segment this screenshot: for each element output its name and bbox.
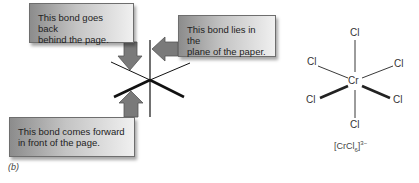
callout-bond-behind: This bond goes back behind the page.: [29, 3, 134, 43]
formula-prefix: [CrCl: [334, 141, 355, 151]
callout-bond-forward: This bond comes forward in front of the …: [9, 117, 135, 157]
atom-cr-center: Cr: [348, 75, 359, 86]
atom-cl-bottom: Cl: [350, 119, 359, 130]
callout-bond-behind-line1: This bond goes back: [38, 12, 125, 34]
callout-bond-forward-line2: in front of the page.: [18, 137, 126, 148]
atom-cl-lower-right: Cl: [393, 94, 402, 105]
callout-bond-in-plane-line1: This bond lies in the: [187, 24, 267, 46]
atom-cl-upper-left: Cl: [307, 56, 316, 67]
arrow-forward-icon: [119, 91, 143, 117]
figure-part-label: (b): [8, 162, 19, 172]
atom-cl-lower-left: Cl: [306, 94, 315, 105]
formula-label: [CrCl6]3−: [334, 140, 367, 153]
callout-bond-forward-line1: This bond comes forward: [18, 126, 126, 137]
callout-bond-in-plane-line2: plane of the paper.: [187, 46, 267, 57]
callout-bond-behind-line2: behind the page.: [38, 34, 125, 45]
arrow-back-icon: [118, 42, 142, 70]
arrow-plane-icon: [151, 37, 178, 61]
atom-cl-top: Cl: [350, 27, 359, 38]
callout-bond-in-plane: This bond lies in the plane of the paper…: [178, 15, 276, 57]
formula-charge: 3−: [360, 140, 367, 146]
atom-cl-upper-right: Cl: [394, 58, 403, 69]
